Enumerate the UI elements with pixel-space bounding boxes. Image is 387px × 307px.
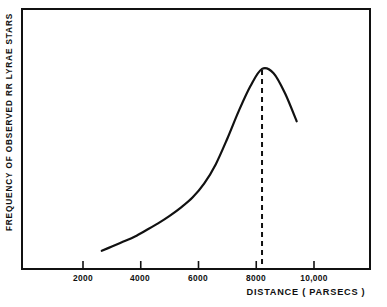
x-tick-label-4000: 4000 [130,274,150,282]
x-axis-title: DISTANCE ( PARSECS ) [247,288,366,297]
y-axis-title: FREQUENCY OF OBSERVED RR LYRAE STARS [6,12,14,232]
figure-container: FREQUENCY OF OBSERVED RR LYRAE STARS 200… [0,0,387,307]
x-tick-label-6000: 6000 [188,274,208,282]
x-tick-label-10000: 10,000 [300,274,327,282]
plot-frame [21,8,371,270]
x-tick-label-8000: 8000 [246,274,266,282]
x-tick-label-2000: 2000 [73,274,93,282]
